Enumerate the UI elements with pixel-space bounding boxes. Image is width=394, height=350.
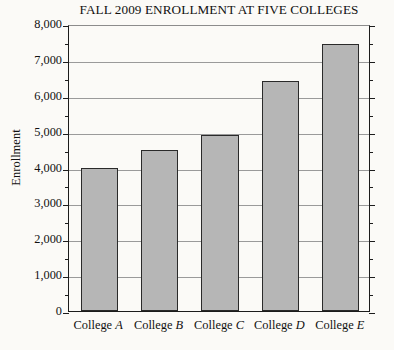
y-tick-label: 7,000 [4, 53, 62, 68]
x-tick-label-name: College [315, 318, 357, 332]
y-tick-major-right [369, 277, 375, 278]
y-tick-minor [65, 223, 69, 224]
y-tick-major [63, 26, 69, 27]
x-tick-label-name: College [134, 318, 176, 332]
bar-chart: FALL 2009 ENROLLMENT AT FIVE COLLEGES En… [0, 0, 394, 350]
y-tick-major-right [369, 170, 375, 171]
y-tick-minor-right [369, 152, 373, 153]
x-tick-label-name: College [74, 318, 116, 332]
y-tick-minor [65, 80, 69, 81]
y-tick-label: 2,000 [4, 232, 62, 247]
y-tick-major-right [369, 313, 375, 314]
y-tick-major [63, 205, 69, 206]
bar [322, 44, 359, 311]
y-tick-major [63, 313, 69, 314]
y-tick-minor-right [369, 259, 373, 260]
y-tick-major [63, 241, 69, 242]
x-tick-label-letter: E [357, 318, 365, 332]
y-tick-major-right [369, 62, 375, 63]
chart-title: FALL 2009 ENROLLMENT AT FIVE COLLEGES [68, 2, 370, 18]
y-tick-major [63, 134, 69, 135]
bar [262, 81, 299, 311]
y-tick-label: 6,000 [4, 89, 62, 104]
y-tick-minor-right [369, 116, 373, 117]
x-tick-label: College E [304, 318, 376, 333]
y-tick-minor-right [369, 223, 373, 224]
x-tick-label-name: College [194, 318, 236, 332]
y-tick-major-right [369, 26, 375, 27]
y-tick-minor-right [369, 295, 373, 296]
x-tick-label-name: College [254, 318, 296, 332]
y-tick-major [63, 98, 69, 99]
y-tick-major-right [369, 205, 375, 206]
y-tick-minor [65, 187, 69, 188]
y-tick-major [63, 277, 69, 278]
y-tick-major [63, 62, 69, 63]
y-tick-major-right [369, 134, 375, 135]
y-tick-minor [65, 152, 69, 153]
y-tick-label: 8,000 [4, 17, 62, 32]
y-tick-minor [65, 44, 69, 45]
bar [141, 150, 178, 311]
bar [81, 168, 118, 312]
y-tick-minor-right [369, 44, 373, 45]
y-tick-minor [65, 116, 69, 117]
plot-area [68, 25, 370, 312]
bar [201, 135, 238, 311]
y-tick-major [63, 170, 69, 171]
y-tick-label: 1,000 [4, 268, 62, 283]
y-tick-label: 4,000 [4, 161, 62, 176]
y-tick-minor-right [369, 80, 373, 81]
y-tick-minor [65, 295, 69, 296]
y-tick-minor-right [369, 187, 373, 188]
y-tick-label: 0 [4, 304, 62, 319]
y-tick-label: 3,000 [4, 196, 62, 211]
y-tick-major-right [369, 241, 375, 242]
y-tick-label: 5,000 [4, 125, 62, 140]
y-tick-minor [65, 259, 69, 260]
y-tick-major-right [369, 98, 375, 99]
